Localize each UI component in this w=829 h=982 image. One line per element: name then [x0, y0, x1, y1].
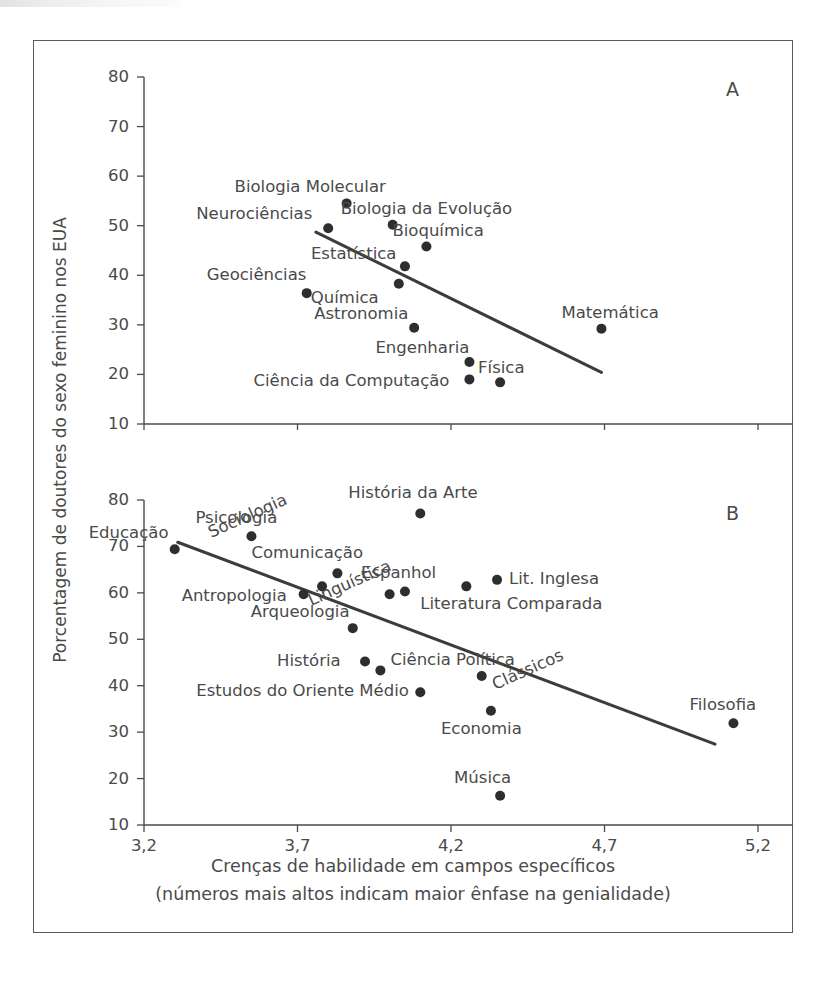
data-point-B-10	[492, 575, 502, 585]
data-point-B-14	[477, 671, 487, 681]
point-label-B-7: Espanhol	[361, 565, 436, 582]
point-label-A-1: Neurociências	[196, 206, 312, 223]
data-point-B-11	[360, 657, 370, 667]
point-label-B-11: História	[277, 653, 341, 670]
point-label-A-7: Astronomia	[314, 306, 408, 323]
x-tick-label-3: 4,7	[582, 836, 628, 855]
y-tick-label-A-10: 10	[95, 414, 129, 433]
data-point-A-7	[409, 323, 419, 333]
data-point-B-8	[348, 623, 358, 633]
y-tick-label-A-80: 80	[95, 67, 129, 86]
point-label-B-13: Estudos do Oriente Médio	[196, 683, 409, 700]
data-point-A-11	[596, 324, 606, 334]
y-tick-label-A-60: 60	[95, 166, 129, 185]
point-label-A-9: Ciência da Computação	[253, 373, 449, 390]
data-point-B-12	[375, 665, 385, 675]
panel-b-letter: B	[726, 502, 739, 524]
data-point-B-0	[170, 544, 180, 554]
point-label-B-2: História da Arte	[348, 485, 477, 502]
y-tick-label-A-50: 50	[95, 216, 129, 235]
data-point-A-3	[421, 242, 431, 252]
data-point-B-17	[728, 718, 738, 728]
point-label-A-8: Engenharia	[375, 340, 469, 357]
point-label-A-0: Biologia Molecular	[235, 179, 386, 196]
data-point-B-16	[495, 791, 505, 801]
data-point-A-4	[400, 261, 410, 271]
point-label-B-8: Arqueologia	[251, 604, 350, 621]
data-point-B-2	[415, 508, 425, 518]
point-label-A-3: Bioquímica	[392, 223, 483, 240]
x-tick-label-1: 3,7	[275, 836, 321, 855]
y-tick-label-B-10: 10	[95, 815, 129, 834]
x-tick-label-4: 5,2	[735, 836, 781, 855]
data-point-B-13	[415, 687, 425, 697]
data-point-B-1	[246, 531, 256, 541]
point-label-A-11: Matemática	[561, 305, 658, 322]
point-label-A-4: Estatística	[311, 246, 397, 263]
y-tick-label-B-60: 60	[95, 583, 129, 602]
x-axis-caption-line1: Crenças de habilidade em campos específi…	[33, 856, 793, 876]
data-point-A-1	[323, 223, 333, 233]
figure-root: 807060504030201080706050403020103,23,74,…	[0, 0, 829, 982]
data-point-A-6	[394, 279, 404, 289]
point-label-B-16: Música	[454, 770, 511, 787]
point-label-B-5: Comunicação	[251, 545, 363, 562]
trendline-B	[178, 542, 715, 744]
point-label-A-2: Biologia da Evolução	[341, 201, 513, 218]
data-point-A-8	[464, 357, 474, 367]
data-point-B-6	[385, 589, 395, 599]
data-point-A-9	[464, 374, 474, 384]
point-label-B-12: Ciência Política	[390, 652, 515, 669]
data-point-B-9	[461, 581, 471, 591]
y-axis-label: Porcentagem de doutores do sexo feminino…	[50, 120, 70, 760]
x-tick-label-0: 3,2	[121, 836, 167, 855]
y-tick-label-A-70: 70	[95, 117, 129, 136]
point-label-B-17: Filosofia	[689, 697, 756, 714]
panel-a-letter: A	[726, 78, 739, 100]
y-tick-label-A-30: 30	[95, 315, 129, 334]
y-tick-label-A-40: 40	[95, 265, 129, 284]
point-label-B-9: Literatura Comparada	[420, 596, 602, 613]
point-label-B-10: Lit. Inglesa	[509, 571, 599, 588]
y-tick-label-B-80: 80	[95, 490, 129, 509]
data-point-B-15	[486, 706, 496, 716]
point-label-B-0: Educação	[89, 525, 169, 542]
data-point-B-7	[400, 586, 410, 596]
data-point-A-10	[495, 377, 505, 387]
y-tick-label-B-30: 30	[95, 722, 129, 741]
x-axis-caption-line2: (números mais altos indicam maior ênfase…	[33, 884, 793, 904]
point-label-B-15: Economia	[441, 721, 522, 738]
y-tick-label-A-20: 20	[95, 364, 129, 383]
x-tick-label-2: 4,2	[428, 836, 474, 855]
point-label-A-10: Física	[478, 360, 524, 377]
point-label-A-5: Geociências	[207, 267, 307, 284]
y-tick-label-B-40: 40	[95, 676, 129, 695]
y-tick-label-B-20: 20	[95, 769, 129, 788]
y-tick-label-B-50: 50	[95, 629, 129, 648]
